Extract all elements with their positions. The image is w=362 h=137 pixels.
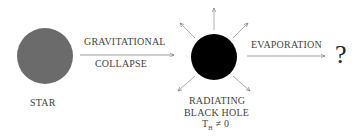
collapse-label-top: GRAVITATIONAL (84, 36, 166, 47)
star-label: STAR (30, 97, 56, 108)
bh-label-line1: RADIATING (189, 95, 245, 106)
question-mark: ? (335, 40, 347, 70)
bh-label-line2: BLACK HOLE (184, 107, 249, 118)
temp-rest: ≠ 0 (213, 118, 229, 129)
collapse-label-bottom: COLLAPSE (95, 58, 147, 69)
black-hole-circle (191, 34, 237, 80)
diagram-canvas (0, 0, 362, 137)
star-circle (17, 28, 73, 84)
bh-temperature: TH ≠ 0 (202, 118, 229, 131)
evaporation-label: EVAPORATION (251, 39, 322, 50)
